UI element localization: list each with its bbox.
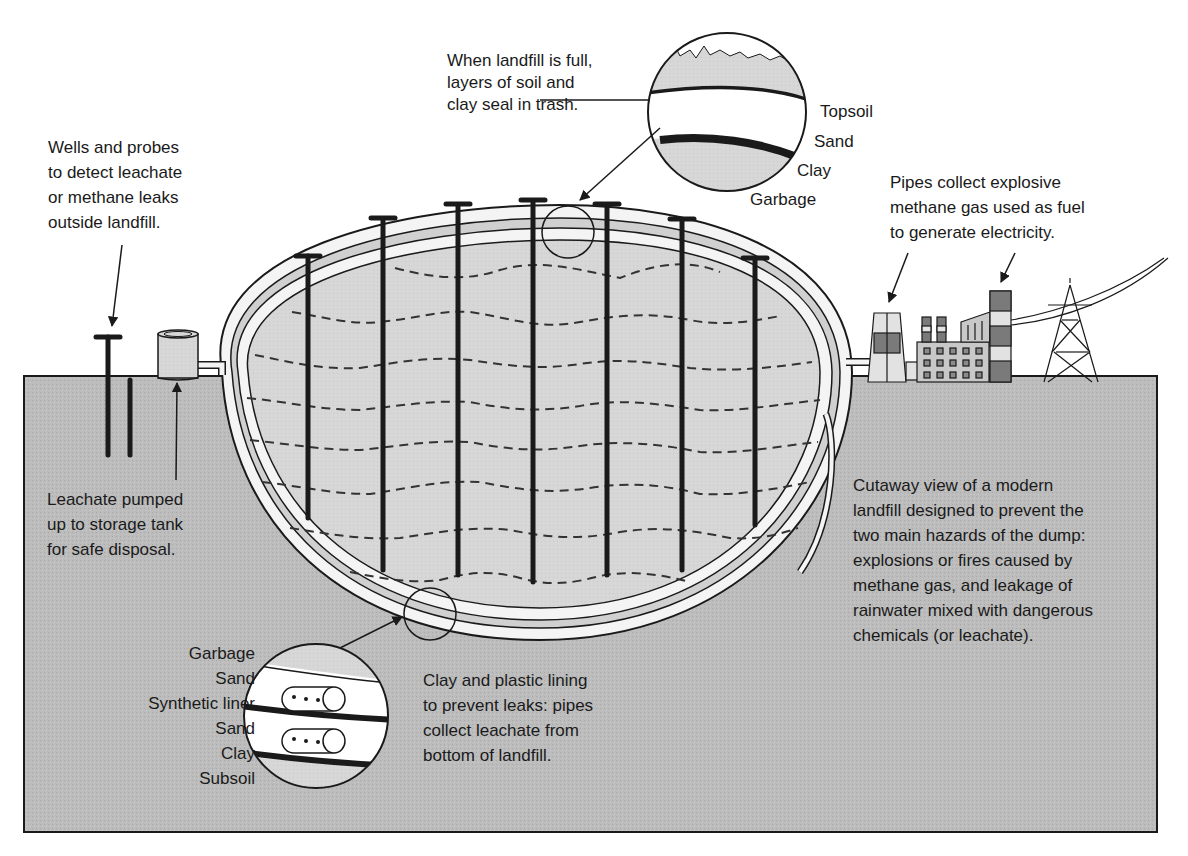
- cap-callout-text: When landfill is full, layers of soil an…: [447, 50, 593, 116]
- cap-layer-clay: Clay: [797, 160, 831, 182]
- leachate-callout-line: up to storage tank: [47, 512, 183, 537]
- wells-callout-text: Wells and probes to detect leachate or m…: [48, 135, 182, 235]
- liner-callout-line: bottom of landfill.: [423, 743, 593, 768]
- methane-callout-text: Pipes collect explosive methane gas used…: [890, 170, 1085, 245]
- summary-line: landfill designed to prevent the: [853, 498, 1093, 523]
- leachate-pipe: [196, 365, 222, 375]
- liner-callout-line: Clay and plastic lining: [423, 668, 593, 693]
- summary-line: explosions or fires caused by: [853, 548, 1093, 573]
- wells-callout-line: outside landfill.: [48, 210, 182, 235]
- methane-callout-line: methane gas used as fuel: [890, 195, 1085, 220]
- leachate-callout-line: for safe disposal.: [47, 537, 183, 562]
- liner-layer-sand: Sand: [80, 666, 255, 691]
- summary-line: chemicals (or leachate).: [853, 623, 1093, 648]
- wells-callout-line: or methane leaks: [48, 185, 182, 210]
- summary-line: Cutaway view of a modern: [853, 473, 1093, 498]
- transmission-tower: [1011, 258, 1168, 382]
- liner-layer-clay: Clay: [80, 741, 255, 766]
- leachate-callout-text: Leachate pumped up to storage tank for s…: [47, 487, 183, 562]
- summary-caption: Cutaway view of a modern landfill design…: [853, 473, 1093, 648]
- wells-callout-line: to detect leachate: [48, 160, 182, 185]
- leachate-callout-line: Leachate pumped: [47, 487, 183, 512]
- liner-layer-sand-2: Sand: [80, 716, 255, 741]
- liner-callout-line: to prevent leaks: pipes: [423, 693, 593, 718]
- summary-line: rainwater mixed with dangerous: [853, 598, 1093, 623]
- summary-line: methane gas, and leakage of: [853, 573, 1093, 598]
- wells-callout-line: Wells and probes: [48, 135, 182, 160]
- cap-layer-garbage: Garbage: [750, 189, 816, 211]
- liner-layer-garbage: Garbage: [80, 641, 255, 666]
- methane-callout-line: Pipes collect explosive: [890, 170, 1085, 195]
- liner-layers-list: Garbage Sand Synthetic liner Sand Clay S…: [80, 641, 255, 791]
- cap-callout-line: layers of soil and: [447, 72, 593, 94]
- storage-tank: [158, 330, 198, 380]
- cap-layer-topsoil: Topsoil: [820, 101, 873, 123]
- landfill-diagram: When landfill is full, layers of soil an…: [0, 0, 1188, 856]
- cap-callout-line: When landfill is full,: [447, 50, 593, 72]
- liner-callout-text: Clay and plastic lining to prevent leaks…: [423, 668, 593, 768]
- cap-layer-sand: Sand: [814, 131, 854, 153]
- power-plant: [868, 291, 1011, 382]
- liner-layer-subsoil: Subsoil: [80, 766, 255, 791]
- liner-layer-synthetic: Synthetic liner: [80, 691, 255, 716]
- cap-callout-line: clay seal in trash.: [447, 94, 593, 116]
- methane-callout-line: to generate electricity.: [890, 220, 1085, 245]
- summary-line: two main hazards of the dump:: [853, 523, 1093, 548]
- liner-callout-line: collect leachate from: [423, 718, 593, 743]
